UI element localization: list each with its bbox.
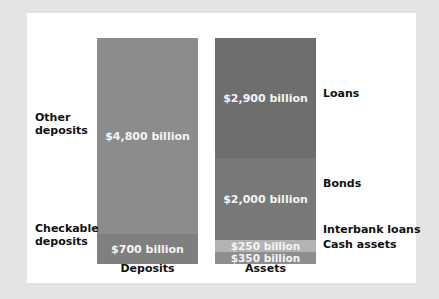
checkable-deposits-segment: $700 billion xyxy=(97,234,198,264)
bonds-label: Bonds xyxy=(323,177,361,190)
other-deposits-segment: $4,800 billion xyxy=(97,38,198,234)
other-deposits-label: Other deposits xyxy=(35,111,88,137)
other-deposits-value: $4,800 billion xyxy=(105,130,190,143)
checkable-deposits-label: Checkable deposits xyxy=(35,222,99,248)
checkable-deposits-value: $700 billion xyxy=(111,243,184,256)
cash-assets-label: Cash assets xyxy=(323,238,397,251)
loans-label: Loans xyxy=(323,87,359,100)
interbank-loans-value: $250 billion xyxy=(231,240,300,252)
other-deposits-label-line1: Other xyxy=(35,111,88,124)
assets-axis-label: Assets xyxy=(215,262,316,275)
checkable-deposits-label-line1: Checkable xyxy=(35,222,99,235)
checkable-deposits-label-line2: deposits xyxy=(35,235,99,248)
bonds-segment: $2,000 billion xyxy=(215,158,316,240)
loans-segment: $2,900 billion xyxy=(215,38,316,158)
assets-bar: $2,900 billion $2,000 billion $250 billi… xyxy=(215,38,316,264)
chart-panel: $4,800 billion $700 billion $2,900 billi… xyxy=(27,13,416,283)
loans-value: $2,900 billion xyxy=(223,92,308,105)
interbank-loans-segment: $250 billion xyxy=(215,240,316,252)
deposits-bar: $4,800 billion $700 billion xyxy=(97,38,198,264)
other-deposits-label-line2: deposits xyxy=(35,124,88,137)
deposits-axis-label: Deposits xyxy=(97,262,198,275)
interbank-loans-label: Interbank loans xyxy=(323,223,420,236)
bonds-value: $2,000 billion xyxy=(223,193,308,206)
